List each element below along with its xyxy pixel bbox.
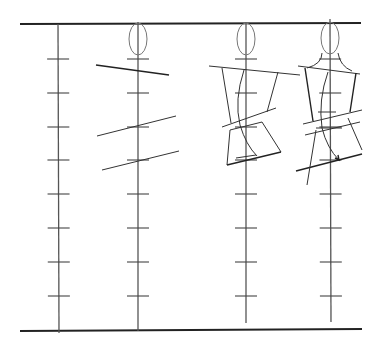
sketch-stroke-2 bbox=[338, 53, 352, 71]
sketch-stroke-2 bbox=[97, 116, 176, 136]
sketch-stroke-3 bbox=[267, 72, 278, 112]
horizontal-guide-lines bbox=[20, 23, 362, 331]
figure-columns bbox=[47, 19, 362, 333]
sketch-stroke-3 bbox=[102, 151, 179, 170]
sketch-stroke-8 bbox=[296, 154, 362, 171]
sketch-stroke-1 bbox=[307, 53, 322, 68]
figure-3-torso-block-figure bbox=[209, 22, 300, 323]
figure-4-refined-figure bbox=[296, 19, 362, 322]
top-guide-line bbox=[20, 23, 361, 24]
sketch-stroke-6 bbox=[227, 130, 230, 165]
bottom-guide-line bbox=[20, 329, 362, 331]
figure-2-head-and-landmark-lines bbox=[96, 22, 179, 331]
sketch-stroke-4 bbox=[305, 68, 313, 121]
sketch-stroke-9 bbox=[238, 70, 257, 156]
figure-proportion-diagram bbox=[0, 0, 384, 348]
sketch-stroke-1 bbox=[96, 65, 169, 75]
sketch-stroke-8 bbox=[227, 152, 281, 165]
sketch-stroke-2 bbox=[222, 68, 231, 123]
center-axis-line bbox=[58, 24, 59, 333]
figure-1-proportion-scale bbox=[47, 24, 70, 333]
sketch-stroke-9 bbox=[307, 130, 316, 185]
sketch-stroke-5 bbox=[350, 73, 356, 112]
sketch-stroke-7 bbox=[262, 122, 281, 152]
center-axis-line bbox=[330, 19, 331, 322]
